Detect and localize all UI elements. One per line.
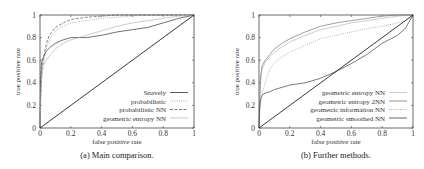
y-tick-label: 0.2 <box>27 101 37 110</box>
legend-label: geometric entropy NN <box>103 115 166 123</box>
x-tick-label: 0.6 <box>128 129 138 138</box>
y-axis-label: true positive rate <box>14 48 22 95</box>
y-tick-label: 0 <box>251 124 255 133</box>
y-tick-label: 0.6 <box>246 56 256 65</box>
y-tick-label: 0.2 <box>246 101 256 110</box>
figure-caption: (a) Main comparison. <box>80 150 153 160</box>
x-tick-label: 0.6 <box>347 129 357 138</box>
y-tick-label: 1 <box>32 11 36 20</box>
x-axis-label: false positive rate <box>92 138 141 146</box>
legend-label: geometric information NN <box>310 106 385 114</box>
legend-label: Snavely <box>143 89 166 97</box>
x-tick-label: 0 <box>38 129 42 138</box>
x-tick-label: 0.8 <box>378 129 388 138</box>
chart-further-methods: 00.20.40.60.8100.20.40.60.81false positi… <box>233 11 415 161</box>
x-tick-label: 0.8 <box>159 129 169 138</box>
chart-main-comparison: 00.20.40.60.8100.20.40.60.81false positi… <box>14 11 196 161</box>
x-tick-label: 0.4 <box>97 129 107 138</box>
x-tick-label: 1 <box>411 129 415 138</box>
y-tick-label: 0.8 <box>246 33 256 42</box>
y-tick-label: 0.8 <box>27 33 37 42</box>
x-tick-label: 0.4 <box>316 129 326 138</box>
y-tick-label: 0.4 <box>246 78 256 87</box>
y-tick-label: 0.4 <box>27 78 37 87</box>
y-tick-label: 0 <box>32 124 36 133</box>
x-tick-label: 1 <box>192 129 196 138</box>
x-tick-label: 0.2 <box>66 129 76 138</box>
legend-label: geometric entropy NN <box>322 89 385 97</box>
x-axis-label: false positive rate <box>311 138 360 146</box>
x-tick-label: 0.2 <box>285 129 295 138</box>
legend-label: probabilistic NN <box>119 106 166 114</box>
figure-caption: (b) Further methods. <box>301 150 371 160</box>
legend-label: geometric entropy 2NN <box>319 98 385 106</box>
figure: 00.20.40.60.8100.20.40.60.81false positi… <box>0 0 424 169</box>
legend-label: geometric smoothed NN <box>316 115 385 123</box>
y-tick-label: 0.6 <box>27 56 37 65</box>
x-tick-label: 0 <box>257 129 261 138</box>
y-tick-label: 1 <box>251 11 255 20</box>
y-axis-label: true positive rate <box>233 48 241 95</box>
legend-label: probabilistic <box>131 98 166 106</box>
